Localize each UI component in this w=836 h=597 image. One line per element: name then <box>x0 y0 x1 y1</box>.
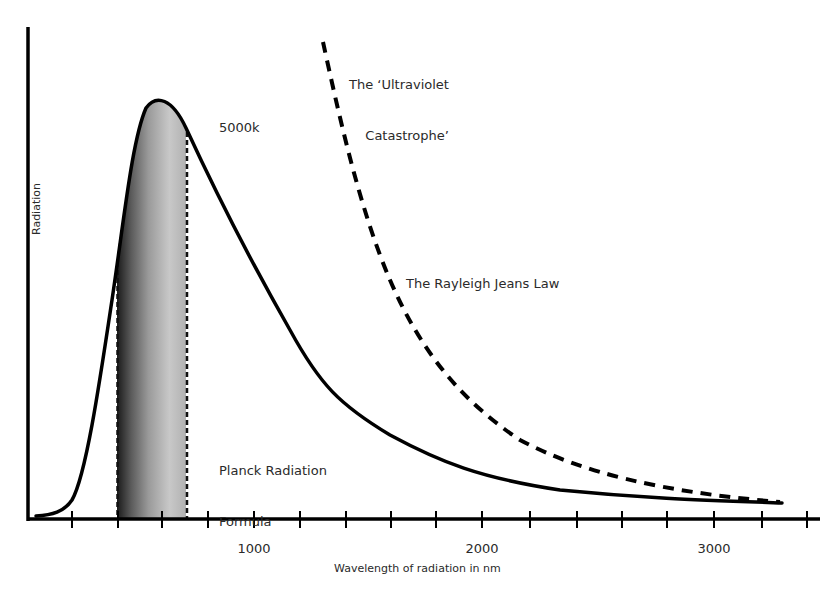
rayleigh-jeans-label: The Rayleigh Jeans Law <box>406 275 559 292</box>
uv-catastrophe-line2: Catastrophe’ <box>349 127 449 144</box>
x-axis-label: Wavelength of radiation in nm <box>334 562 501 575</box>
visible-spectrum-band <box>117 95 187 519</box>
x-tick-label-3000: 3000 <box>697 541 730 556</box>
temperature-annotation: 5000k <box>219 119 260 136</box>
y-axis-label: Radiation <box>30 183 43 235</box>
planck-line2: Formula <box>219 513 327 530</box>
uv-catastrophe-annotation: The ‘Ultraviolet Catastrophe’ <box>349 42 449 161</box>
planck-formula-label: Planck Radiation Formula <box>219 428 327 547</box>
planck-line1: Planck Radiation <box>219 462 327 479</box>
uv-catastrophe-line1: The ‘Ultraviolet <box>349 76 449 93</box>
x-tick-label-2000: 2000 <box>465 541 498 556</box>
